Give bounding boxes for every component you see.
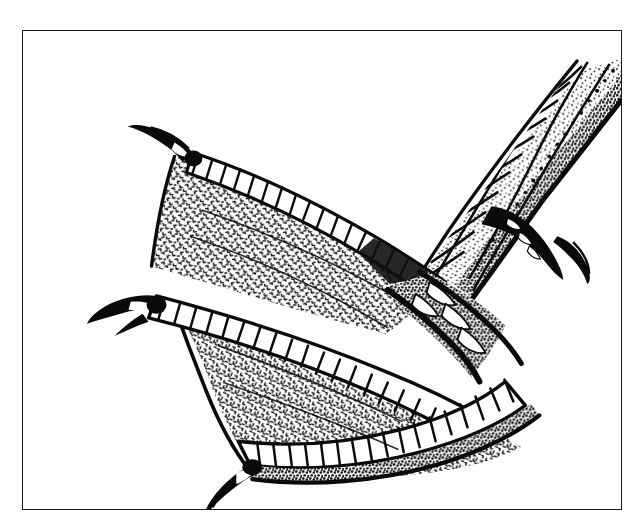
webbed-foot-illustration [23,31,621,509]
figure-frame: Palmate webbed foot of a waterbird seen … [22,30,622,510]
illustration-page: Palmate webbed foot of a waterbird seen … [0,0,643,525]
